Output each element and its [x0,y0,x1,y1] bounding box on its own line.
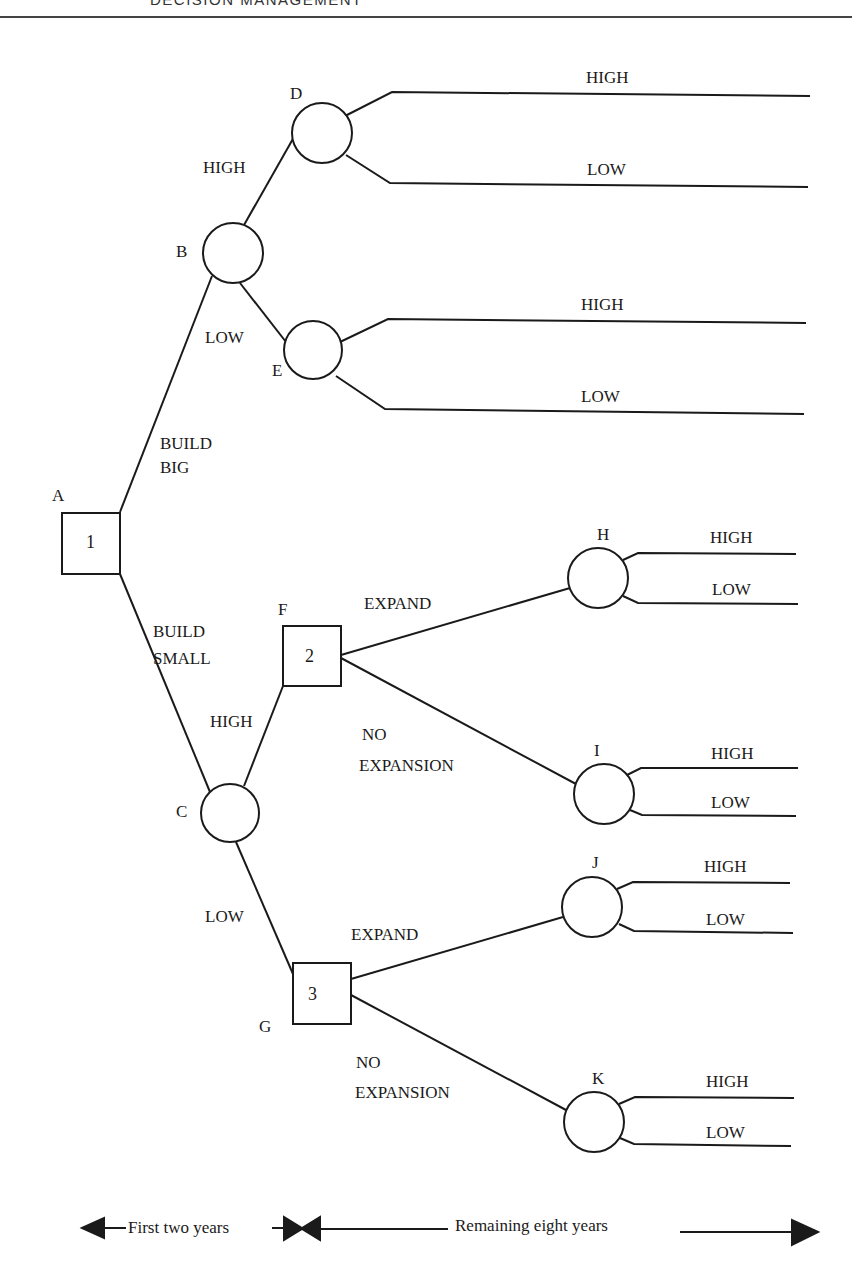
node-number-g: 3 [308,984,317,1004]
edge-e-low [336,376,804,414]
edge-label-k-high: HIGH [706,1072,749,1092]
edge-h-high [623,553,796,560]
edge-i-high [627,768,798,775]
edge-b-e [240,283,286,342]
node-number-a: 1 [86,532,95,552]
edge-label-h-high: HIGH [710,528,753,548]
edge-a-c [120,574,210,792]
edge-label-d-low: LOW [587,160,626,180]
chance-node-j [562,877,622,937]
chance-node-i [574,764,634,824]
edge-label-build-big-1: BUILD [160,434,212,454]
edge-b-d [244,137,294,225]
edge-label-k-low: LOW [706,1123,745,1143]
node-label-i: I [594,741,600,761]
edge-label-e-low: LOW [581,387,620,407]
edge-e-high [340,319,806,342]
edge-label-build-small-2: SMALL [153,649,211,669]
edge-label-g-k-2: EXPANSION [355,1083,450,1103]
node-label-f: F [278,600,287,620]
edge-label-build-big-2: BIG [160,458,189,478]
chance-node-b [203,223,263,283]
edge-label-c-g: LOW [205,907,244,927]
node-number-f: 2 [305,646,314,666]
edge-label-i-low: LOW [711,793,750,813]
node-label-d: D [290,84,302,104]
arrow-left-icon [82,1218,104,1238]
edge-label-f-h: EXPAND [364,594,431,614]
chance-node-e [284,321,342,379]
chance-node-c [201,784,259,842]
edge-label-build-small-1: BUILD [153,622,205,642]
edge-label-e-high: HIGH [581,295,624,315]
edge-label-b-d: HIGH [203,158,246,178]
arrow-bowtie-icon [284,1217,320,1240]
timeline-remaining-label: Remaining eight years [455,1216,608,1236]
edge-label-j-low: LOW [706,910,745,930]
node-label-b: B [176,242,187,262]
node-label-k: K [592,1069,604,1089]
edge-h-low [623,596,798,604]
decision-node-g [293,963,351,1024]
edge-j-high [617,882,790,889]
edge-d-high [345,92,810,116]
edge-c-f [244,686,283,786]
edge-label-d-high: HIGH [586,68,629,88]
chance-node-h [568,548,628,608]
node-label-e: E [272,361,282,381]
edge-label-f-i-1: NO [362,725,387,745]
arrow-right-icon [792,1220,818,1245]
edge-label-c-f: HIGH [210,712,253,732]
edge-label-b-e: LOW [205,328,244,348]
edge-label-i-high: HIGH [711,744,754,764]
node-label-c: C [176,802,187,822]
node-label-g: G [259,1017,271,1037]
edge-k-high [619,1097,794,1104]
edge-c-g [236,842,293,974]
node-label-j: J [592,853,599,873]
node-label-a: A [52,486,64,506]
chance-node-k [564,1092,624,1152]
node-label-h: H [597,525,609,545]
timeline-first-label: First two years [128,1218,229,1238]
edge-label-j-high: HIGH [704,857,747,877]
edge-label-h-low: LOW [712,580,751,600]
edge-label-f-i-2: EXPANSION [359,756,454,776]
edge-label-g-j: EXPAND [351,925,418,945]
chance-node-d [292,103,352,163]
edge-d-low [346,155,808,187]
edge-label-g-k-1: NO [356,1053,381,1073]
